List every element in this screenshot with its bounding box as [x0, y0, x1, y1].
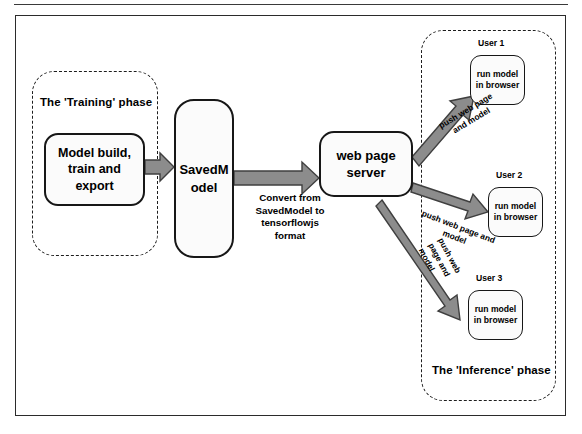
node-user-2-run-model[interactable]: run model in browser	[488, 187, 543, 237]
inference-phase-label: The 'Inference' phase	[432, 364, 551, 376]
node-saved-model[interactable]: SavedM odel	[174, 99, 234, 258]
diagram-canvas: The 'Training' phase The 'Inference' pha…	[0, 0, 582, 434]
node-user-3-run-model[interactable]: run model in browser	[468, 290, 523, 340]
user-1-caption: User 1	[478, 38, 504, 48]
user-3-caption: User 3	[476, 273, 502, 283]
user-2-caption: User 2	[496, 170, 522, 180]
page-top-rule	[14, 4, 568, 5]
edge-label-convert-savedmodel: Convert from SavedModel to tensorflowjs …	[238, 192, 342, 243]
node-web-page-server[interactable]: web page server	[319, 131, 413, 197]
node-model-build[interactable]: Model build, train and export	[44, 133, 145, 206]
training-phase-label: The 'Training' phase	[40, 96, 152, 108]
